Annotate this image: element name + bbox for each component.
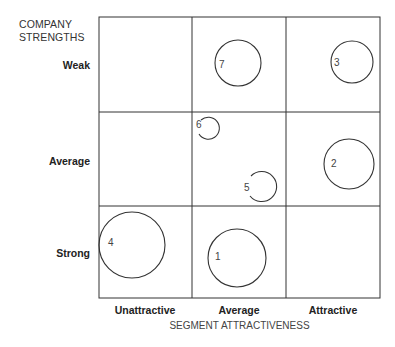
col-label-attractive: Attractive xyxy=(286,304,380,316)
bubble-label-4: 4 xyxy=(108,237,114,248)
matrix-grid: 7 3 6 5 2 4 1 xyxy=(0,0,395,347)
col-label-average: Average xyxy=(192,304,286,316)
x-axis-title: SEGMENT ATTRACTIVENESS xyxy=(99,320,380,331)
bubble-label-5: 5 xyxy=(244,182,250,193)
bubble-5 xyxy=(250,172,277,202)
bubble-label-3: 3 xyxy=(334,57,340,68)
col-label-unattractive: Unattractive xyxy=(98,304,192,316)
bubble-label-6: 6 xyxy=(196,119,202,130)
bubble-labels: 7 3 6 5 2 4 1 xyxy=(108,57,340,262)
bubble-label-1: 1 xyxy=(215,251,221,262)
bubble-label-7: 7 xyxy=(219,59,225,70)
bubble-label-2: 2 xyxy=(331,158,337,169)
bubble-6 xyxy=(199,117,219,139)
